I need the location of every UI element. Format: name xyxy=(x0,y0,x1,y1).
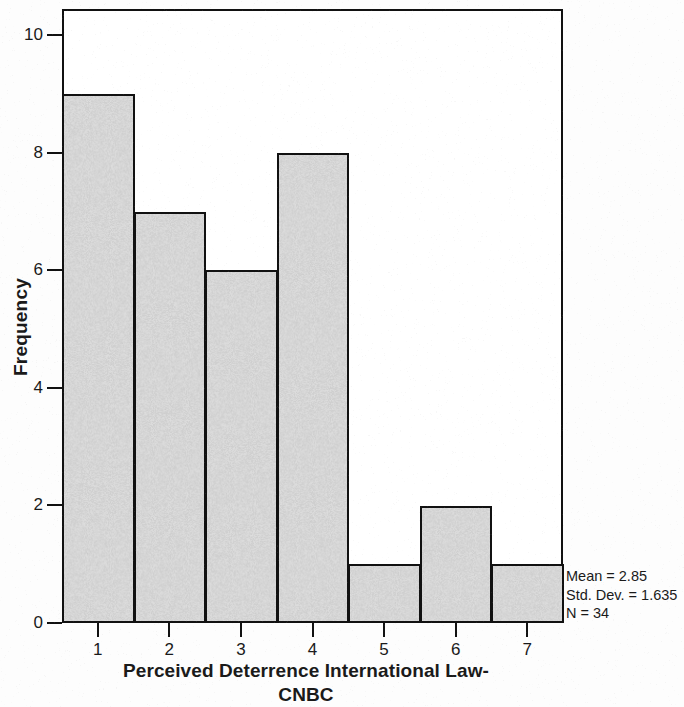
y-axis-tick-label: 10 xyxy=(18,26,43,43)
histogram-bar xyxy=(420,506,493,624)
y-axis-tick xyxy=(47,152,62,154)
x-axis-tick-label: 2 xyxy=(149,640,189,659)
x-axis-tick xyxy=(455,623,457,637)
x-axis-tick-label: 1 xyxy=(78,640,118,659)
x-axis-title-line-2: CNBC xyxy=(278,684,333,705)
x-axis-tick xyxy=(97,623,99,637)
bar-texture xyxy=(493,566,562,621)
x-axis-tick xyxy=(240,623,242,637)
histogram-bar xyxy=(134,212,207,623)
histogram-bar xyxy=(277,153,350,623)
x-axis-tick xyxy=(168,623,170,637)
x-axis-tick xyxy=(383,623,385,637)
stat-std-dev: Std. Dev. = 1.635 xyxy=(566,586,677,605)
y-axis-tick-label: 2 xyxy=(18,496,43,513)
x-axis-tick xyxy=(526,623,528,637)
histogram-bar xyxy=(205,270,278,623)
bars-layer xyxy=(62,9,563,623)
stats-annotation: Mean = 2.85 Std. Dev. = 1.635 N = 34 xyxy=(566,567,677,623)
bar-texture xyxy=(64,96,133,621)
x-axis-tick-label: 6 xyxy=(436,640,476,659)
bar-texture xyxy=(207,272,276,621)
y-axis-tick xyxy=(47,622,62,624)
x-axis-title: Perceived Deterrence International Law- … xyxy=(30,659,582,707)
x-axis-title-line-1: Perceived Deterrence International Law- xyxy=(123,660,489,681)
histogram-bar xyxy=(62,94,135,623)
y-axis-tick xyxy=(47,269,62,271)
y-axis-tick-label: 0 xyxy=(18,614,43,631)
x-axis-tick-label: 7 xyxy=(507,640,547,659)
y-axis-title: Frequency xyxy=(10,262,32,392)
bar-texture xyxy=(422,508,491,622)
x-axis-tick-label: 5 xyxy=(364,640,404,659)
stat-n: N = 34 xyxy=(566,604,677,623)
x-axis-tick xyxy=(312,623,314,637)
y-axis-tick xyxy=(47,504,62,506)
histogram-bar xyxy=(348,564,421,623)
y-axis-tick xyxy=(47,387,62,389)
y-axis-tick xyxy=(47,34,62,36)
x-axis-tick-label: 4 xyxy=(293,640,333,659)
histogram-figure: 0246810 Frequency 1234567 Perceived Dete… xyxy=(0,0,684,707)
bar-texture xyxy=(350,566,419,621)
y-axis-tick-label: 8 xyxy=(18,144,43,161)
bar-texture xyxy=(136,214,205,621)
x-axis-tick-label: 3 xyxy=(221,640,261,659)
histogram-bar xyxy=(491,564,564,623)
bar-texture xyxy=(279,155,348,621)
stat-mean: Mean = 2.85 xyxy=(566,567,677,586)
